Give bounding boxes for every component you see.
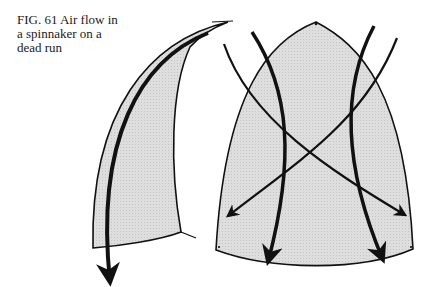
head-corner	[315, 23, 318, 26]
spinnaker-airflow-diagram	[0, 0, 438, 287]
clew-left	[218, 246, 220, 248]
front-view-sail	[216, 22, 413, 266]
side-sail-body	[93, 22, 228, 248]
side-view-sail	[93, 21, 233, 282]
sheet-line	[181, 232, 196, 238]
front-sail-body	[216, 22, 413, 266]
clew-right	[410, 246, 412, 248]
halyard-line	[212, 21, 233, 22]
